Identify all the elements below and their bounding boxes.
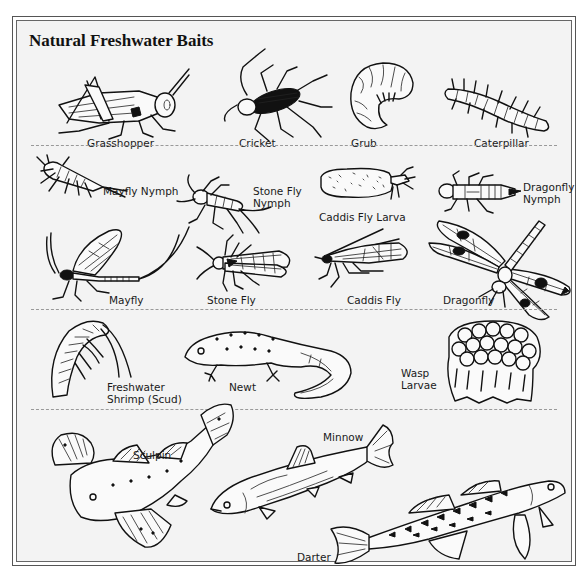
mayfly-illustration [39, 225, 189, 305]
label-mayfly-nymph: Mayfly Nymph [103, 185, 179, 197]
label-wasp-larvae-1: Wasp [401, 367, 429, 379]
label-grub: Grub [351, 137, 377, 149]
section-divider-1 [31, 145, 557, 146]
label-mayfly: Mayfly [109, 294, 144, 306]
dragonfly-nymph-illustration [435, 171, 521, 215]
illustration-frame: Natural Freshwater Baits [12, 16, 576, 566]
grasshopper-illustration [39, 63, 189, 143]
label-darter: Darter [297, 551, 331, 563]
label-stone-fly-nymph-1: Stone Fly [253, 185, 302, 197]
page-title: Natural Freshwater Baits [29, 31, 213, 51]
caddis-fly-larva-illustration [317, 167, 417, 207]
label-cricket: Cricket [239, 137, 276, 149]
label-freshwater-shrimp-1: Freshwater [107, 381, 165, 393]
label-dragonfly-nymph-2: Nymph [523, 193, 561, 205]
label-newt: Newt [229, 381, 256, 393]
mayfly-nymph-illustration [33, 155, 133, 205]
darter-illustration [329, 463, 569, 573]
section-divider-2 [31, 309, 557, 310]
newt-illustration [181, 323, 361, 401]
label-dragonfly-nymph-1: Dragonfly [523, 181, 574, 193]
label-stone-fly-nymph-2: Nymph [253, 197, 291, 209]
label-caddis-fly: Caddis Fly [347, 294, 401, 306]
label-sculpin: Sculpin [133, 449, 171, 461]
label-caddis-fly-larva: Caddis Fly Larva [319, 211, 406, 223]
label-grasshopper: Grasshopper [87, 137, 154, 149]
label-stone-fly: Stone Fly [207, 294, 256, 306]
illustration-panel: Natural Freshwater Baits [16, 20, 572, 562]
label-wasp-larvae-2: Larvae [401, 379, 437, 391]
caddis-fly-illustration [313, 225, 413, 291]
cricket-illustration [217, 45, 332, 145]
label-minnow: Minnow [323, 431, 363, 443]
label-caterpillar: Caterpillar [474, 137, 529, 149]
grub-illustration [347, 57, 417, 132]
label-dragonfly: Dragonfly [443, 294, 494, 306]
label-freshwater-shrimp-2: Shrimp (Scud) [107, 393, 182, 405]
caterpillar-illustration [442, 75, 554, 137]
stone-fly-illustration [197, 235, 297, 293]
wasp-larvae-illustration [437, 317, 547, 407]
dragonfly-illustration [429, 217, 579, 323]
